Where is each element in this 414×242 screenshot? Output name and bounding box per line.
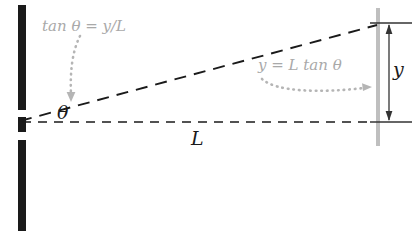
dotted-arrow-to-angle [67, 36, 80, 102]
dimension-arrowhead-top [386, 24, 393, 34]
dotted-arrow-to-screen [262, 79, 372, 91]
barrier-segment-top [18, 5, 26, 110]
physics-diagram: tan θ = y/L y = L tan θ θ L y [0, 0, 414, 242]
dotted-arrow-to-angle-path [71, 36, 80, 95]
dimension-arrowhead-bottom [386, 111, 393, 121]
screen-line [376, 8, 380, 146]
tan-formula-label: tan θ = y/L [42, 19, 126, 34]
slit-barrier [18, 5, 26, 231]
barrier-segment-bottom [18, 140, 26, 231]
displacement-y-label: y [393, 60, 404, 79]
dotted-arrow-to-screen-path [262, 79, 364, 91]
y-formula-label: y = L tan θ [258, 58, 342, 73]
dotted-arrow-to-screen-head [362, 83, 372, 91]
distance-L-label: L [191, 129, 204, 148]
theta-angle-label: θ [57, 103, 68, 122]
